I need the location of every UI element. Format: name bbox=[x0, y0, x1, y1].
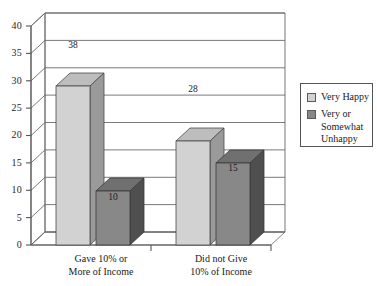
y-tick-label-25: 25 bbox=[0, 102, 22, 113]
y-tick-label-30: 30 bbox=[0, 75, 22, 86]
category-label-gave-line1: Gave 10% or bbox=[41, 253, 161, 266]
bar-value-15: 15 bbox=[216, 163, 250, 173]
y-tick-label-20: 20 bbox=[0, 129, 22, 140]
bar-chart: 40 35 30 25 20 15 10 5 0 38 10 28 15 Gav… bbox=[0, 0, 377, 286]
y-tick-label-35: 35 bbox=[0, 47, 22, 58]
legend: Very Happy Very or Somewhat Unhappy bbox=[300, 83, 373, 147]
legend-label-unhappy: Very or Somewhat Unhappy bbox=[321, 108, 363, 146]
bar-unhappy-gave bbox=[96, 178, 144, 245]
legend-label-very-happy: Very Happy bbox=[321, 91, 369, 104]
y-tick-label-0: 0 bbox=[0, 239, 22, 250]
bar-value-28: 28 bbox=[176, 84, 210, 94]
category-label-didnot: Did not Give 10% of Income bbox=[161, 253, 281, 278]
category-label-didnot-line2: 10% of Income bbox=[161, 266, 281, 279]
legend-swatch-unhappy bbox=[307, 110, 316, 119]
y-tick-label-40: 40 bbox=[0, 20, 22, 31]
bar-value-10: 10 bbox=[96, 192, 130, 202]
legend-item-unhappy[interactable]: Very or Somewhat Unhappy bbox=[307, 108, 363, 146]
category-label-gave: Gave 10% or More of Income bbox=[41, 253, 161, 278]
y-tick-marks bbox=[26, 26, 31, 245]
category-label-gave-line2: More of Income bbox=[41, 266, 161, 279]
y-tick-label-5: 5 bbox=[0, 212, 22, 223]
y-tick-label-15: 15 bbox=[0, 157, 22, 168]
legend-item-very-happy[interactable]: Very Happy bbox=[307, 91, 369, 104]
legend-swatch-very-happy bbox=[307, 93, 316, 102]
category-label-didnot-line1: Did not Give bbox=[161, 253, 281, 266]
bar-value-38: 38 bbox=[56, 40, 90, 50]
y-tick-label-10: 10 bbox=[0, 184, 22, 195]
x-tick-marks bbox=[151, 245, 271, 251]
